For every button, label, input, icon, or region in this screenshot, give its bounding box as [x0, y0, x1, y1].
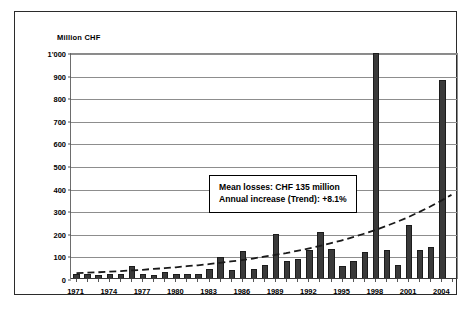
x-tick-label: 1998: [367, 287, 384, 296]
bar: [406, 225, 412, 279]
y-tick-label: 200: [53, 230, 66, 239]
x-tick-mark: [164, 279, 165, 282]
annotation-line-2: Annual increase (Trend): +8.1%: [219, 193, 347, 205]
bar: [362, 252, 368, 279]
bar: [439, 80, 445, 279]
bar: [306, 250, 312, 279]
y-axis-title: Million CHF: [57, 33, 100, 42]
x-tick-mark: [319, 279, 320, 282]
x-tick-mark: [331, 279, 332, 282]
bar: [395, 265, 401, 279]
bar: [373, 53, 379, 279]
y-tick-label: 500: [53, 163, 66, 172]
x-tick-mark: [342, 279, 343, 282]
x-tick-label: 1980: [167, 287, 184, 296]
y-tick-label: 900: [53, 72, 66, 81]
x-tick-mark: [264, 279, 265, 282]
x-tick-mark: [397, 279, 398, 282]
x-tick-mark: [76, 279, 77, 282]
x-tick-mark: [87, 279, 88, 282]
bar: [295, 259, 301, 279]
chart-frame: Million CHF 0100200300400500600700800900…: [14, 11, 457, 295]
plot-area: 01002003004005006007008009001'000: [70, 53, 458, 279]
bar: [428, 247, 434, 279]
x-tick-mark: [109, 279, 110, 282]
y-tick-label: 0: [62, 276, 66, 285]
bar: [262, 265, 268, 279]
x-tick-label: 1971: [67, 287, 84, 296]
x-tick-mark: [186, 279, 187, 282]
x-tick-mark: [308, 279, 309, 282]
x-tick-mark: [231, 279, 232, 282]
x-tick-mark: [142, 279, 143, 282]
x-tick-mark: [452, 279, 453, 282]
x-tick-mark: [297, 279, 298, 282]
x-tick-mark: [209, 279, 210, 282]
x-tick-label: 2004: [433, 287, 450, 296]
x-tick-mark: [441, 279, 442, 282]
y-tick-label: 800: [53, 95, 66, 104]
x-tick-mark: [375, 279, 376, 282]
x-tick-mark: [197, 279, 198, 282]
x-tick-label: 1989: [267, 287, 284, 296]
stats-annotation-box: Mean losses: CHF 135 million Annual incr…: [209, 175, 357, 213]
y-tick-label: 300: [53, 208, 66, 217]
x-tick-mark: [175, 279, 176, 282]
x-tick-mark: [353, 279, 354, 282]
x-tick-label: 1995: [333, 287, 350, 296]
bar: [217, 257, 223, 279]
x-tick-mark: [419, 279, 420, 282]
y-tick-label: 700: [53, 117, 66, 126]
x-tick-label: 1983: [200, 287, 217, 296]
bar: [384, 250, 390, 279]
x-tick-label: 1974: [100, 287, 117, 296]
bar: [273, 234, 279, 279]
x-tick-label: 1986: [233, 287, 250, 296]
y-tick-label: 400: [53, 185, 66, 194]
x-tick-mark: [153, 279, 154, 282]
x-tick-mark: [253, 279, 254, 282]
x-tick-mark: [386, 279, 387, 282]
x-tick-mark: [120, 279, 121, 282]
bar: [284, 261, 290, 279]
x-tick-mark: [242, 279, 243, 282]
x-axis: 1971197419771980198319861989199219951998…: [70, 279, 458, 305]
x-tick-mark: [364, 279, 365, 282]
y-tick-label: 100: [53, 253, 66, 262]
x-tick-mark: [408, 279, 409, 282]
bar: [240, 251, 246, 279]
x-tick-label: 1977: [134, 287, 151, 296]
bar-series: [71, 54, 457, 279]
annotation-line-1: Mean losses: CHF 135 million: [219, 181, 347, 193]
x-tick-mark: [286, 279, 287, 282]
x-tick-label: 1992: [300, 287, 317, 296]
bar: [417, 250, 423, 279]
x-tick-mark: [220, 279, 221, 282]
bar: [350, 261, 356, 279]
x-tick-mark: [98, 279, 99, 282]
x-tick-label: 2001: [400, 287, 417, 296]
x-tick-mark: [430, 279, 431, 282]
y-tick-label: 600: [53, 140, 66, 149]
x-tick-mark: [275, 279, 276, 282]
bar: [317, 232, 323, 279]
y-tick-label: 1'000: [48, 50, 66, 59]
x-tick-mark: [131, 279, 132, 282]
bar: [328, 249, 334, 279]
